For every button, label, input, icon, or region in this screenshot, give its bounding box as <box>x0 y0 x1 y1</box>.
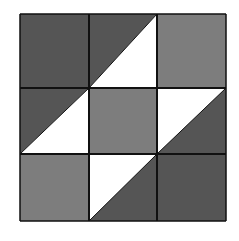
quilt-cell-r0-c2 <box>157 14 226 88</box>
quilt-cell-r0-c1 <box>89 14 157 88</box>
quilt-cell-r2-c2 <box>157 154 226 221</box>
quilt-cell-r2-c0 <box>20 154 89 221</box>
quilt-cell-r0-c0 <box>20 14 89 88</box>
solid-square <box>20 154 89 221</box>
solid-square <box>157 14 226 88</box>
quilt-cells <box>20 14 226 221</box>
quilt-cell-r1-c1 <box>89 88 157 154</box>
quilt-cell-r2-c1 <box>89 154 157 221</box>
solid-square <box>20 14 89 88</box>
solid-square <box>157 154 226 221</box>
quilt-cell-r1-c0 <box>20 88 89 154</box>
solid-square <box>89 88 157 154</box>
quilt-block-diagram <box>0 0 239 241</box>
quilt-cell-r1-c2 <box>157 88 226 154</box>
